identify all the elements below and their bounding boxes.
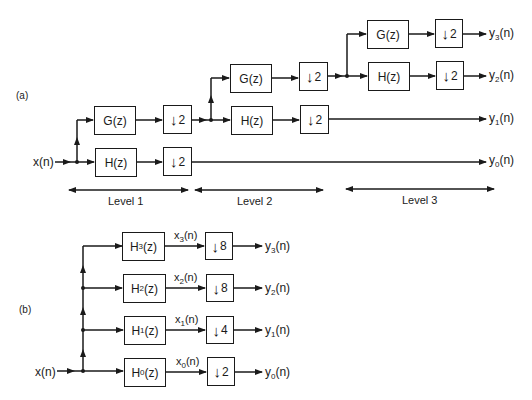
output-y0-a: y0(n) <box>489 154 514 166</box>
down-arrow-icon: ↓ <box>306 69 314 84</box>
filter-h0: H0(z) <box>124 358 166 387</box>
level2-lowpass-downsampler: ↓2 <box>300 105 329 134</box>
filter-label: H(z) <box>105 156 128 170</box>
filter-label: G(z) <box>103 114 126 128</box>
output-y3-b: y3(n) <box>265 240 290 252</box>
filter-label: G(z) <box>239 72 262 86</box>
down-arrow-icon: ↓ <box>213 364 221 379</box>
factor-label: 4 <box>221 323 228 337</box>
filter-h3: H3(z) <box>122 232 165 261</box>
downsampler-4-branch1: ↓4 <box>206 316 234 344</box>
downsampler-8-branch3: ↓8 <box>205 232 233 260</box>
filter-h2: H2(z) <box>123 274 166 303</box>
output-y2-b: y2(n) <box>265 282 290 294</box>
level1-lowpass-downsampler: ↓2 <box>163 147 192 176</box>
filter-h1: H1(z) <box>124 316 166 345</box>
factor-label: 2 <box>222 365 229 379</box>
factor-label: 2 <box>450 27 457 41</box>
output-y2-a: y2(n) <box>489 69 514 81</box>
down-arrow-icon: ↓ <box>441 26 449 41</box>
level1-highpass-filter: G(z) <box>94 106 136 135</box>
level1-lowpass-filter: H(z) <box>95 148 137 177</box>
filter-label: G(z) <box>376 28 399 42</box>
level3-lowpass-filter: H(z) <box>368 62 410 91</box>
signal-x0: x0(n) <box>176 355 199 367</box>
down-arrow-icon: ↓ <box>170 112 178 127</box>
input-label-b: x(n) <box>35 366 56 378</box>
output-y1-a: y1(n) <box>489 112 514 124</box>
down-arrow-icon: ↓ <box>442 68 450 83</box>
downsampler-2-branch0: ↓2 <box>207 357 235 386</box>
signal-x1: x1(n) <box>175 313 198 325</box>
downsampler-8-branch2: ↓8 <box>206 274 234 302</box>
level2-highpass-filter: G(z) <box>230 64 272 93</box>
output-y1-b: y1(n) <box>265 324 290 336</box>
part-a-label: (a) <box>16 90 28 102</box>
level3-highpass-downsampler: ↓2 <box>435 19 463 48</box>
factor-label: 2 <box>178 155 185 169</box>
down-arrow-icon: ↓ <box>307 112 315 127</box>
factor-label: 8 <box>220 239 227 253</box>
level2-label: Level 2 <box>237 195 272 207</box>
signal-x2: x2(n) <box>174 271 197 283</box>
level2-highpass-downsampler: ↓2 <box>299 62 328 91</box>
factor-label: 2 <box>178 113 185 127</box>
down-arrow-icon: ↓ <box>212 281 220 296</box>
factor-label: 2 <box>451 69 458 83</box>
input-label-a: x(n) <box>33 156 54 168</box>
level3-label: Level 3 <box>402 194 437 206</box>
level3-highpass-filter: G(z) <box>367 20 409 49</box>
down-arrow-icon: ↓ <box>211 239 219 254</box>
factor-label: 2 <box>314 70 321 84</box>
level3-lowpass-downsampler: ↓2 <box>436 61 464 90</box>
output-y0-b: y0(n) <box>265 366 290 378</box>
output-y3-a: y3(n) <box>489 27 514 39</box>
part-b-label: (b) <box>19 304 31 316</box>
filter-label: H(z) <box>241 114 264 128</box>
factor-label: 8 <box>221 281 228 295</box>
factor-label: 2 <box>315 113 322 127</box>
down-arrow-icon: ↓ <box>170 154 178 169</box>
filter-label: H(z) <box>378 70 401 84</box>
level1-highpass-downsampler: ↓2 <box>163 105 192 134</box>
level2-lowpass-filter: H(z) <box>231 106 273 135</box>
signal-x3: x3(n) <box>174 229 197 241</box>
level1-label: Level 1 <box>108 195 143 207</box>
down-arrow-icon: ↓ <box>212 323 220 338</box>
